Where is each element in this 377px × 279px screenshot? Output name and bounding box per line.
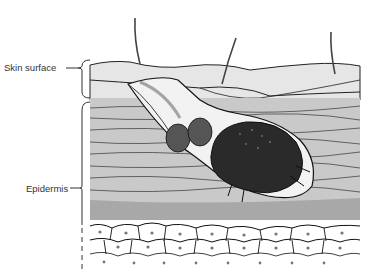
bracket-skin-surface [66, 60, 90, 98]
skin-surface-layer [90, 61, 360, 100]
basal-cell-layer [90, 220, 360, 272]
bracket-epidermis [70, 102, 90, 272]
skin-burrow-illustration [0, 0, 377, 279]
